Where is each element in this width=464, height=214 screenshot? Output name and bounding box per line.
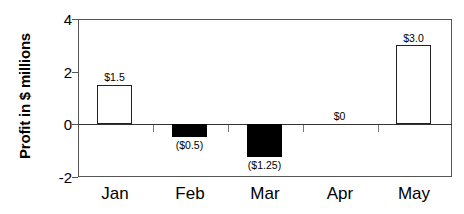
- bar-chart-figure: Profit in $ millions 4 2 0 -2 $1.5 ($0.5…: [0, 0, 464, 214]
- bar-feb[interactable]: [172, 124, 207, 137]
- x-label-feb: Feb: [165, 183, 215, 205]
- bar-may[interactable]: [396, 45, 431, 124]
- x-label-apr: Apr: [315, 183, 365, 205]
- value-label-may: $3.0: [391, 32, 436, 44]
- y-axis-title: Profit in $ millions: [14, 0, 36, 196]
- value-label-mar: ($1.25): [242, 159, 287, 171]
- bar-mar[interactable]: [247, 124, 282, 157]
- y-axis-tick-labels: 4 2 0 -2: [40, 0, 72, 214]
- x-label-mar: Mar: [240, 183, 290, 205]
- category-tick-2: [228, 125, 229, 132]
- y-tick-label-2: 2: [44, 65, 72, 80]
- category-tick-1: [153, 125, 154, 132]
- value-label-apr: $0: [317, 110, 362, 122]
- x-label-jan: Jan: [90, 183, 140, 205]
- category-tick-3: [303, 125, 304, 132]
- y-tick-label-4: 4: [44, 12, 72, 27]
- category-tick-4: [378, 125, 379, 132]
- y-tick-label-0: 0: [44, 117, 72, 132]
- value-label-jan: $1.5: [92, 71, 137, 83]
- y-tick-mark-minus-2: [72, 177, 78, 178]
- y-tick-label-minus-2: -2: [44, 170, 72, 185]
- bar-jan[interactable]: [97, 85, 132, 125]
- value-label-feb: ($0.5): [167, 139, 212, 151]
- x-label-may: May: [389, 183, 439, 205]
